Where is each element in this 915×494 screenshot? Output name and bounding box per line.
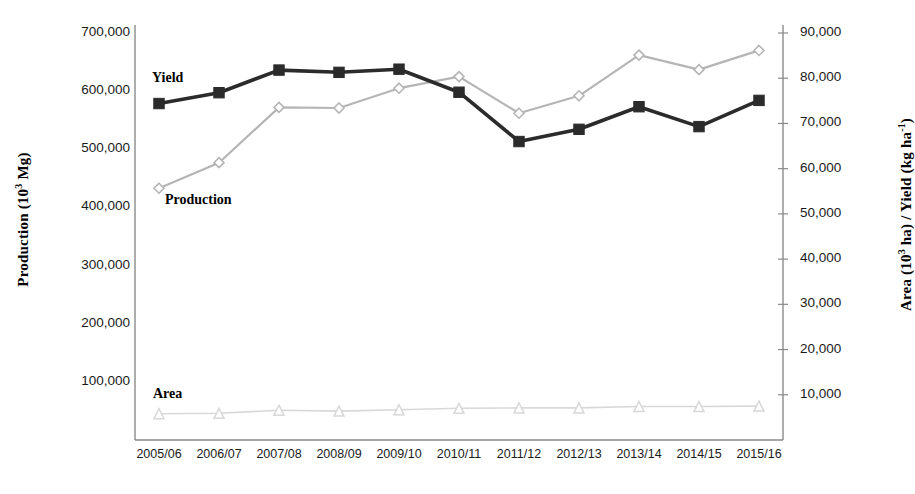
x-tick-2015-16: 2015/16	[724, 447, 794, 461]
y-right-tick-40000: 40,000	[800, 250, 874, 265]
data-point-marker	[694, 65, 704, 75]
data-point-marker	[154, 183, 164, 193]
series-label-yield: Yield	[152, 70, 183, 86]
data-point-marker	[214, 87, 224, 97]
plot-area	[0, 0, 915, 494]
y-left-tick-400000: 400,000	[56, 198, 130, 213]
data-point-marker	[574, 124, 584, 134]
y-left-tick-700000: 700,000	[56, 24, 130, 39]
y-right-tick-80000: 80,000	[800, 69, 874, 84]
data-point-marker	[694, 121, 704, 131]
data-point-marker	[514, 136, 524, 146]
data-point-marker	[334, 103, 344, 113]
y-right-tick-10000: 10,000	[800, 386, 874, 401]
y-left-tick-600000: 600,000	[56, 82, 130, 97]
data-point-marker	[514, 108, 524, 118]
y-right-tick-30000: 30,000	[800, 295, 874, 310]
series-label-area: Area	[153, 386, 182, 402]
data-point-marker	[754, 45, 764, 55]
data-point-marker	[454, 87, 464, 97]
data-point-marker	[334, 67, 344, 77]
data-point-marker	[274, 65, 284, 75]
data-point-marker	[394, 64, 404, 74]
series-area	[154, 401, 764, 419]
data-point-marker	[754, 95, 764, 105]
y-right-tick-50000: 50,000	[800, 205, 874, 220]
data-point-marker	[634, 102, 644, 112]
y-right-tick-70000: 70,000	[800, 114, 874, 129]
series-label-production: Production	[165, 192, 232, 208]
y-left-tick-300000: 300,000	[56, 257, 130, 272]
data-point-marker	[394, 83, 404, 93]
y-right-tick-20000: 20,000	[800, 341, 874, 356]
data-point-marker	[154, 98, 164, 108]
y-right-tick-90000: 90,000	[800, 24, 874, 39]
data-point-marker	[454, 72, 464, 82]
y-left-tick-100000: 100,000	[56, 373, 130, 388]
chart-figure: Production (103 Mg) Area (103 ha) / Yiel…	[0, 0, 915, 494]
y-right-tick-60000: 60,000	[800, 160, 874, 175]
y-left-tick-200000: 200,000	[56, 315, 130, 330]
y-left-tick-500000: 500,000	[56, 140, 130, 155]
